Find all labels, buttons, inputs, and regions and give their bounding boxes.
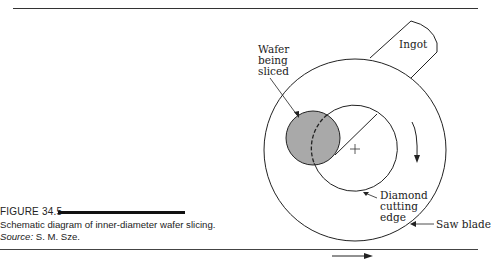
figure-number-bar <box>58 211 185 214</box>
bottom-rule <box>0 249 478 250</box>
ingot-label: Ingot <box>399 38 428 50</box>
figure-number: FIGURE 34.5 <box>0 206 62 217</box>
caption-source-label: Source: <box>0 231 33 242</box>
diamond-label-3: edge <box>380 211 406 223</box>
caption-main: Schematic diagram of inner-diameter wafe… <box>0 219 215 230</box>
feed-arrowhead <box>364 253 373 259</box>
caption-source-value: S. M. Sze. <box>33 231 80 242</box>
saw-blade-label: Saw blade <box>436 218 491 230</box>
figure-caption: Schematic diagram of inner-diameter wafe… <box>0 219 250 243</box>
wafer-label-3: sliced <box>258 65 289 77</box>
